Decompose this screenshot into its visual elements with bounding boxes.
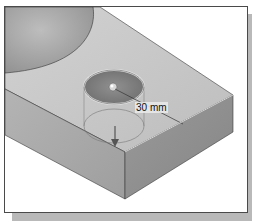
dimension-label[interactable]: 30 mm bbox=[135, 102, 168, 113]
graphics-viewport[interactable]: 30 mm bbox=[4, 6, 248, 213]
model-canvas[interactable] bbox=[5, 7, 248, 213]
